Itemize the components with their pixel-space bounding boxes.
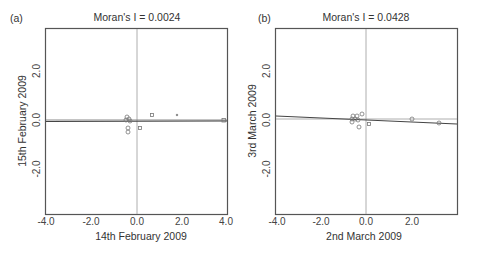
panel-b-y-ticks: 2.0 0.0 -2.0 bbox=[261, 64, 272, 178]
panel-a-xtick: 0.0 bbox=[130, 216, 144, 227]
panel-b-xtick: 0.0 bbox=[359, 216, 373, 227]
panel-a-ytick: 2.0 bbox=[31, 64, 42, 78]
panel-b-xtick: -4.0 bbox=[268, 216, 286, 227]
panel-a-regression-line bbox=[46, 121, 227, 122]
panel-b-x-ticks: -4.0 -2.0 0.0 2.0 bbox=[268, 216, 419, 227]
panel-a-x-label: 14th February 2009 bbox=[95, 230, 187, 242]
panel-a-xtick: 4.0 bbox=[219, 216, 233, 227]
panel-b-ytick: 2.0 bbox=[261, 64, 272, 78]
panel-a-title: Moran's I = 0.0024 bbox=[94, 11, 181, 23]
panel-b-title: Moran's I = 0.0428 bbox=[323, 11, 410, 23]
panel-b-regression-line bbox=[276, 116, 457, 124]
panel-a-ytick: 0.0 bbox=[31, 113, 42, 127]
panel-a-xtick: -4.0 bbox=[37, 216, 55, 227]
panel-b-y-label: 3rd March 2009 bbox=[246, 84, 258, 158]
moran-scatterplots: (a) Moran's I = 0.0024 2.0 0.0 -2.0 -4.0 bbox=[0, 0, 478, 254]
panel-b-xtick: -2.0 bbox=[312, 216, 330, 227]
panel-a-tag: (a) bbox=[10, 12, 23, 24]
panel-a-y-ticks: 2.0 0.0 -2.0 bbox=[31, 64, 42, 178]
panel-a-y-label: 15th February 2009 bbox=[16, 75, 28, 167]
panel-a-ytick: -2.0 bbox=[31, 160, 42, 178]
panel-a-xtick: 2.0 bbox=[175, 216, 189, 227]
panel-b-x-label: 2nd March 2009 bbox=[326, 230, 402, 242]
panel-b-frame bbox=[276, 29, 458, 215]
panel-b-ytick: -2.0 bbox=[261, 160, 272, 178]
panel-a: (a) Moran's I = 0.0024 2.0 0.0 -2.0 -4.0 bbox=[10, 11, 233, 242]
panel-a-points bbox=[124, 114, 226, 135]
panel-b-points bbox=[350, 112, 441, 129]
panel-b: (b) Moran's I = 0.0428 2.0 0.0 -2.0 -4.0… bbox=[246, 11, 458, 242]
panel-a-xtick: -2.0 bbox=[82, 216, 100, 227]
panel-b-ytick: 0.0 bbox=[261, 113, 272, 127]
panel-b-tag: (b) bbox=[258, 12, 271, 24]
panel-a-x-ticks: -4.0 -2.0 0.0 2.0 4.0 bbox=[37, 216, 233, 227]
panel-b-xtick: 2.0 bbox=[405, 216, 419, 227]
